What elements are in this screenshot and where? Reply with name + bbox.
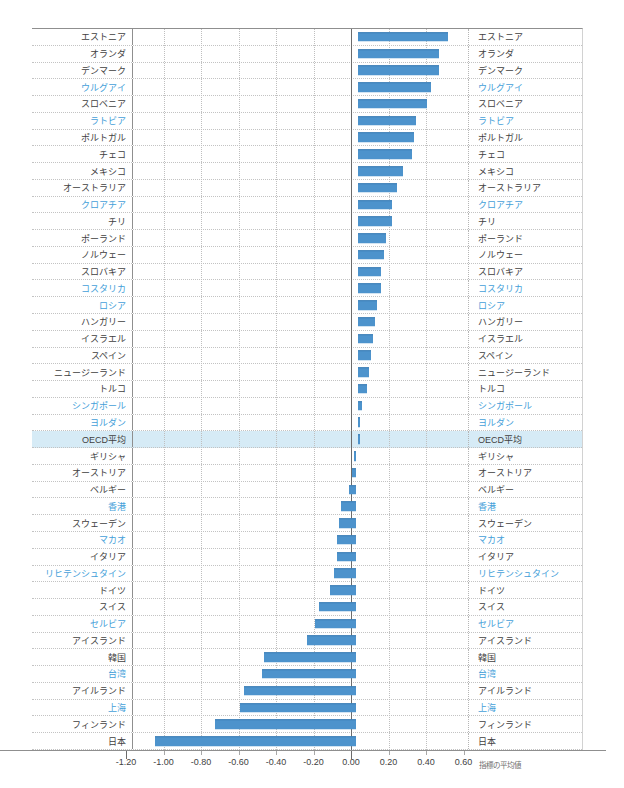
bar-chart: エストニアエストニアオランダオランダデンマークデンマークウルグアイウルグアイスロ… bbox=[32, 28, 583, 750]
plot-cell bbox=[132, 599, 469, 615]
plot-cell bbox=[132, 264, 469, 280]
value-bar bbox=[307, 636, 356, 646]
country-label-right: エストニア bbox=[469, 29, 582, 45]
axis-tick-label: 0.60 bbox=[455, 757, 473, 767]
table-row: チェコチェコ bbox=[32, 146, 582, 163]
plot-cell bbox=[132, 566, 469, 582]
axis-tick bbox=[239, 751, 240, 755]
plot-cell bbox=[132, 649, 469, 665]
country-label-right: フィンランド bbox=[469, 716, 582, 732]
axis-tick-label: -0.60 bbox=[228, 757, 249, 767]
value-bar bbox=[358, 435, 360, 445]
plot-cell bbox=[132, 213, 469, 229]
plot-cell bbox=[132, 431, 469, 447]
value-bar bbox=[337, 552, 356, 562]
country-label-right: オランダ bbox=[469, 46, 582, 62]
value-bar bbox=[341, 502, 356, 512]
country-label-left: ギリシャ bbox=[32, 448, 132, 464]
table-row: ニュージーランドニュージーランド bbox=[32, 364, 582, 381]
axis-tick-label: -0.80 bbox=[191, 757, 212, 767]
country-label-right: ドイツ bbox=[469, 582, 582, 598]
plot-cell bbox=[132, 683, 469, 699]
value-bar bbox=[358, 133, 414, 143]
axis-tick-label: -0.40 bbox=[266, 757, 287, 767]
country-label-left: チェコ bbox=[32, 146, 132, 162]
country-label-right: スイス bbox=[469, 599, 582, 615]
plot-cell bbox=[132, 498, 469, 514]
value-bar bbox=[358, 116, 416, 126]
country-label-left: ニュージーランド bbox=[32, 364, 132, 380]
country-label-right: チリ bbox=[469, 213, 582, 229]
value-bar bbox=[358, 166, 403, 176]
value-bar bbox=[358, 233, 386, 243]
value-bar bbox=[358, 267, 381, 277]
table-row: ハンガリーハンガリー bbox=[32, 314, 582, 331]
country-label-right: イスラエル bbox=[469, 331, 582, 347]
value-bar bbox=[358, 418, 360, 428]
plot-cell bbox=[132, 197, 469, 213]
value-bar bbox=[358, 66, 439, 76]
table-row: 香港香港 bbox=[32, 498, 582, 515]
value-bar bbox=[352, 468, 356, 478]
axis-tick bbox=[314, 751, 315, 755]
table-row: コスタリカコスタリカ bbox=[32, 280, 582, 297]
chart-rows: エストニアエストニアオランダオランダデンマークデンマークウルグアイウルグアイスロ… bbox=[32, 29, 582, 750]
country-label-right: OECD平均 bbox=[469, 431, 582, 447]
table-row: ベルギーベルギー bbox=[32, 482, 582, 499]
plot-cell bbox=[132, 381, 469, 397]
country-label-right: 韓国 bbox=[469, 649, 582, 665]
chart-page: エストニアエストニアオランダオランダデンマークデンマークウルグアイウルグアイスロ… bbox=[0, 0, 624, 788]
plot-cell bbox=[132, 549, 469, 565]
value-bar bbox=[358, 99, 427, 109]
value-bar bbox=[240, 703, 356, 713]
plot-cell bbox=[132, 582, 469, 598]
plot-cell bbox=[132, 230, 469, 246]
axis-tick bbox=[464, 751, 465, 755]
value-bar bbox=[358, 200, 392, 210]
country-label-right: 台湾 bbox=[469, 666, 582, 682]
country-label-right: クロアチア bbox=[469, 197, 582, 213]
table-row: シンガポールシンガポール bbox=[32, 398, 582, 415]
plot-cell bbox=[132, 96, 469, 112]
plot-cell bbox=[132, 146, 469, 162]
country-label-right: ハンガリー bbox=[469, 314, 582, 330]
country-label-left: トルコ bbox=[32, 381, 132, 397]
table-row: トルコトルコ bbox=[32, 381, 582, 398]
country-label-left: ベルギー bbox=[32, 482, 132, 498]
country-label-right: ポルトガル bbox=[469, 130, 582, 146]
axis-tick-label: -1.00 bbox=[153, 757, 174, 767]
country-label-left: ノルウェー bbox=[32, 247, 132, 263]
plot-cell bbox=[132, 79, 469, 95]
axis-tick bbox=[164, 751, 165, 755]
table-row: フィンランドフィンランド bbox=[32, 716, 582, 733]
table-row: ドイツドイツ bbox=[32, 582, 582, 599]
value-bar bbox=[337, 535, 356, 545]
table-row: エストニアエストニア bbox=[32, 29, 582, 46]
value-bar bbox=[358, 183, 397, 193]
country-label-left: ヨルダン bbox=[32, 415, 132, 431]
table-row: ポーランドポーランド bbox=[32, 230, 582, 247]
country-label-right: ベルギー bbox=[469, 482, 582, 498]
country-label-left: チリ bbox=[32, 213, 132, 229]
table-row: イタリアイタリア bbox=[32, 549, 582, 566]
value-bar bbox=[339, 518, 356, 528]
table-row: ギリシャギリシャ bbox=[32, 448, 582, 465]
country-label-left: ウルグアイ bbox=[32, 79, 132, 95]
table-row: ラトビアラトビア bbox=[32, 113, 582, 130]
country-label-right: スロベニア bbox=[469, 96, 582, 112]
country-label-left: リヒテンシュタイン bbox=[32, 566, 132, 582]
country-label-left: メキシコ bbox=[32, 163, 132, 179]
value-bar bbox=[358, 317, 375, 327]
country-label-left: オーストラリア bbox=[32, 180, 132, 196]
table-row: 韓国韓国 bbox=[32, 649, 582, 666]
plot-cell bbox=[132, 398, 469, 414]
country-label-right: スウェーデン bbox=[469, 515, 582, 531]
country-label-left: クロアチア bbox=[32, 197, 132, 213]
table-row: デンマークデンマーク bbox=[32, 63, 582, 80]
country-label-right: スロバキア bbox=[469, 264, 582, 280]
plot-cell bbox=[132, 733, 469, 749]
table-row: マカオマカオ bbox=[32, 532, 582, 549]
plot-cell bbox=[132, 666, 469, 682]
country-label-right: コスタリカ bbox=[469, 280, 582, 296]
table-row: オーストリアオーストリア bbox=[32, 465, 582, 482]
